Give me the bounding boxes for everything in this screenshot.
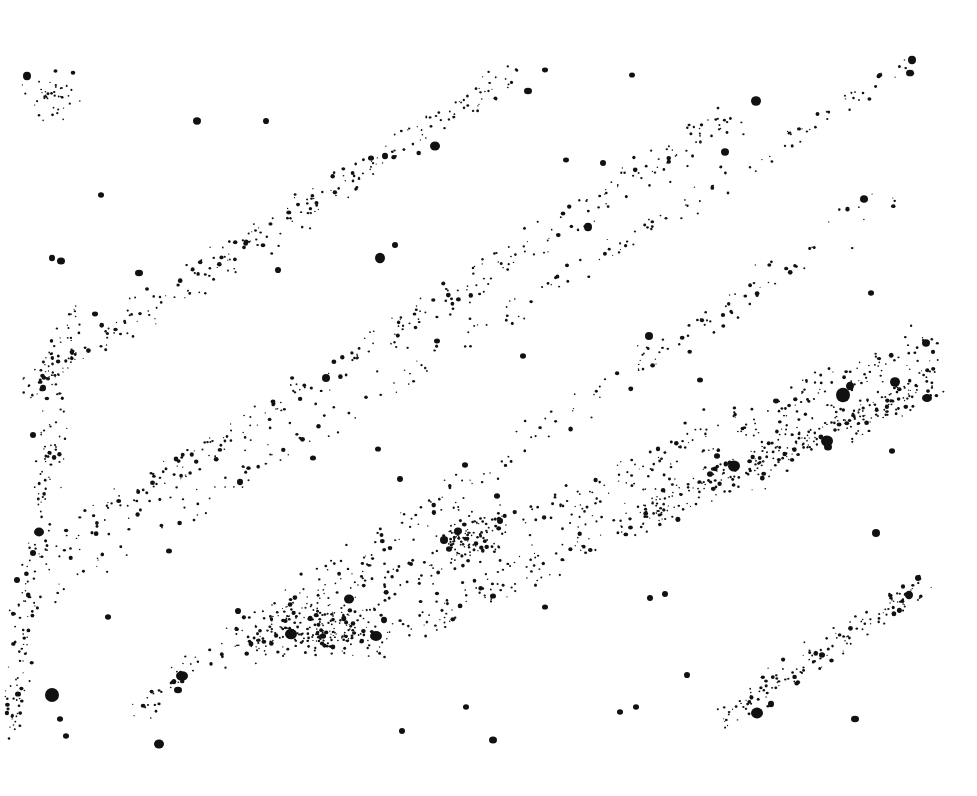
ink-dot: [648, 219, 650, 221]
ink-dot: [787, 447, 789, 449]
ink-dot: [483, 291, 485, 293]
ink-dot: [157, 703, 160, 706]
ink-dot: [54, 69, 58, 73]
ink-dot: [452, 543, 455, 545]
ink-dot: [321, 623, 323, 624]
ink-dot: [50, 445, 52, 447]
ink-dot: [51, 374, 53, 376]
ink-dot: [703, 481, 705, 483]
ink-dot: [898, 65, 901, 68]
ink-dot: [462, 497, 464, 499]
ink-dot: [860, 404, 861, 405]
ink-dot: [43, 97, 45, 99]
ink-dot: [658, 523, 662, 527]
ink-dot: [478, 104, 479, 105]
ink-dot: [235, 608, 241, 614]
ink-dot: [769, 156, 771, 158]
ink-dot: [894, 77, 895, 78]
ink-dot: [890, 403, 892, 405]
ink-dot: [22, 636, 26, 639]
ink-dot: [472, 272, 474, 274]
ink-dot: [435, 601, 438, 603]
ink-dot: [486, 324, 488, 326]
ink-dot: [598, 195, 601, 198]
ink-dot: [242, 432, 243, 433]
ink-dot: [319, 597, 321, 599]
ink-dot: [605, 189, 606, 190]
ink-dot: [857, 422, 860, 425]
ink-dot: [54, 601, 56, 603]
ink-dot: [482, 263, 483, 264]
ink-dot: [644, 488, 646, 490]
ink-dot: [908, 389, 910, 390]
ink-dot: [296, 383, 298, 385]
ink-dot: [322, 631, 324, 633]
ink-dot: [478, 293, 481, 296]
ink-dot: [805, 379, 808, 382]
ink-dot: [177, 459, 181, 463]
ink-dot: [907, 383, 909, 385]
ink-dot: [329, 389, 330, 390]
ink-dot: [755, 264, 756, 265]
ink-dot: [529, 505, 532, 508]
ink-dot: [336, 591, 339, 593]
ink-dot: [337, 431, 339, 433]
ink-dot: [314, 647, 316, 649]
ink-dot: [936, 342, 939, 344]
ink-dot: [354, 417, 356, 419]
ink-dot: [465, 594, 467, 597]
ink-dot: [541, 286, 543, 288]
ink-dot: [856, 367, 858, 369]
ink-dot: [160, 691, 163, 693]
ink-dot: [887, 608, 889, 610]
ink-dot: [621, 531, 623, 533]
ink-dot: [418, 318, 420, 320]
ink-dot: [350, 643, 352, 645]
ink-dot: [139, 508, 142, 511]
ink-dot: [585, 200, 587, 202]
ink-dot: [430, 142, 440, 151]
ink-dot: [578, 199, 580, 201]
ink-dot: [398, 619, 401, 622]
ink-dot: [875, 408, 878, 411]
ink-dot: [368, 350, 371, 352]
ink-dot: [458, 603, 463, 608]
ink-dot: [497, 478, 499, 481]
ink-dot: [334, 636, 336, 638]
ink-dot: [494, 517, 497, 520]
ink-dot: [455, 101, 457, 103]
ink-dot: [735, 416, 736, 417]
ink-dot: [866, 633, 868, 635]
ink-dot: [772, 458, 774, 460]
ink-dot: [136, 490, 140, 494]
ink-dot: [286, 615, 288, 617]
ink-dot: [154, 704, 157, 706]
ink-dot: [844, 370, 848, 373]
ink-dot: [382, 162, 383, 163]
ink-dot: [765, 684, 768, 687]
ink-dot: [403, 513, 405, 515]
ink-dot: [162, 470, 165, 473]
ink-dot: [316, 602, 318, 604]
ink-dot: [17, 677, 19, 679]
ink-dot: [692, 439, 694, 441]
ink-dot: [323, 593, 324, 594]
ink-dot: [775, 677, 778, 679]
ink-dot: [224, 667, 226, 669]
ink-dot: [872, 529, 880, 537]
ink-dot: [830, 404, 832, 406]
ink-dot: [62, 119, 64, 121]
ink-dot: [593, 478, 597, 483]
ink-dot: [547, 251, 549, 252]
ink-dot: [778, 450, 780, 452]
ink-dot: [885, 404, 889, 409]
ink-dot: [314, 650, 316, 652]
ink-dot: [588, 548, 593, 552]
ink-dot: [640, 512, 641, 513]
ink-dot: [150, 480, 155, 484]
ink-dot: [116, 322, 117, 323]
ink-dot: [793, 397, 797, 401]
ink-dot: [340, 578, 342, 580]
ink-dot: [854, 91, 856, 93]
ink-dot: [711, 487, 716, 491]
